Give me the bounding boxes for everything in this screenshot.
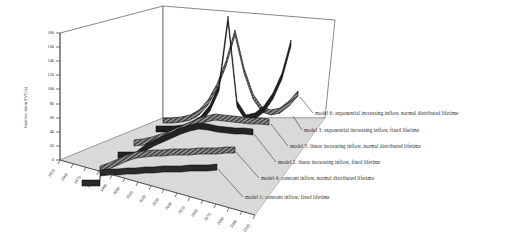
y-tick-label: 180 — [26, 30, 54, 35]
legend-item-model-1[interactable]: model 1: constant inflow, fixed lifetime — [245, 194, 330, 200]
y-tick-label: 120 — [26, 72, 54, 77]
chart-canvas — [0, 0, 528, 248]
y-tick-label: 160 — [26, 44, 54, 49]
y-axis-title: Outflow (kton PVC/a) — [23, 87, 28, 128]
y-tick-label: 20 — [26, 143, 54, 148]
y-axis — [56, 33, 60, 160]
legend-item-model-4[interactable]: model 4: constant inflow, normal distrib… — [261, 175, 374, 181]
legend-item-model-6[interactable]: model 6: exponential increasing inflow, … — [315, 110, 458, 116]
legend-item-model-3[interactable]: model 3: exponential increasing inflow, … — [304, 127, 419, 133]
y-tick-label: 100 — [26, 86, 54, 91]
legend-item-model-2[interactable]: model 2: linear increasing inflow, fixed… — [278, 159, 380, 165]
y-tick-label: 60 — [26, 115, 54, 120]
y-tick-label: 140 — [26, 58, 54, 63]
y-tick-label: 80 — [26, 101, 54, 106]
y-tick-label: 40 — [26, 129, 54, 134]
y-tick-label: 0 — [26, 157, 54, 162]
legend-item-model-5[interactable]: model 5: linear increasing inflow, norma… — [290, 143, 421, 149]
chart-figure: Outflow (kton PVC/a) 180 160 140 120 100… — [0, 0, 528, 248]
